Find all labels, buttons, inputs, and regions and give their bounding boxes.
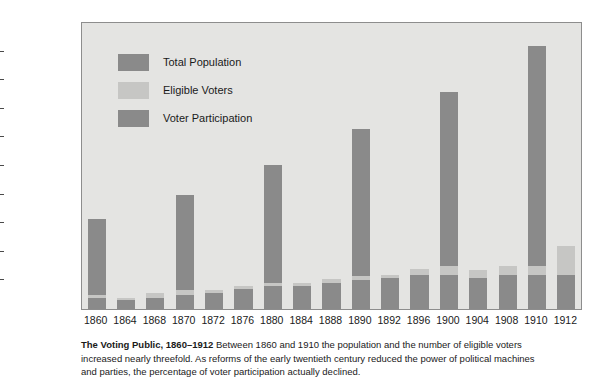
- x-axis-tick-label-1892: 1892: [375, 314, 404, 326]
- x-axis-tick-label-1890: 1890: [345, 314, 374, 326]
- x-axis-tick-label-1912: 1912: [551, 314, 580, 326]
- bar-segment-voter-participation-1890: [352, 280, 370, 309]
- bar-group-1904: [469, 270, 487, 309]
- y-axis-tick-mark-10: [0, 279, 4, 280]
- x-axis-tick-label-1904: 1904: [463, 314, 492, 326]
- bar-segment-voter-participation-1884: [293, 286, 311, 309]
- x-axis-tick-label-1864: 1864: [110, 314, 139, 326]
- legend-swatch-eligible-voters: [118, 82, 149, 99]
- bar-group-1888: [322, 279, 340, 309]
- bar-group-1880: [264, 165, 282, 309]
- x-axis-tick-label-1888: 1888: [316, 314, 345, 326]
- bar-group-1864: [117, 298, 135, 309]
- legend-label-eligible-voters: Eligible Voters: [163, 82, 233, 99]
- legend-swatch-total-population: [118, 54, 149, 71]
- y-axis-tick-mark-20: [0, 251, 4, 252]
- x-axis-tick-label-1876: 1876: [228, 314, 257, 326]
- bar-segment-voter-participation-1876: [234, 289, 252, 309]
- bar-group-1876: [234, 286, 252, 309]
- bar-group-1908: [499, 266, 517, 309]
- x-axis-tick-label-1868: 1868: [140, 314, 169, 326]
- y-axis-tick-mark-90: [0, 51, 4, 52]
- bar-group-1872: [205, 290, 223, 309]
- y-axis-tick-mark-30: [0, 222, 4, 223]
- bar-segment-voter-participation-1910: [528, 275, 546, 309]
- x-axis-tick-label-1908: 1908: [492, 314, 521, 326]
- legend-item-voter-participation: Voter Participation: [118, 108, 338, 132]
- bar-group-1870: [176, 195, 194, 309]
- bar-segment-eligible-voters-1912: [557, 246, 575, 275]
- bar-group-1900: [440, 92, 458, 309]
- bar-segment-voter-participation-1872: [205, 293, 223, 309]
- legend-label-total-population: Total Population: [163, 54, 241, 71]
- bar-segment-eligible-voters-1910: [528, 266, 546, 275]
- bar-segment-eligible-voters-1908: [499, 266, 517, 274]
- bar-group-1912: [557, 246, 575, 309]
- bar-group-1896: [410, 269, 428, 309]
- figure-caption: The Voting Public, 1860–1912 Between 186…: [81, 338, 551, 379]
- bar-segment-total-population-1870: [176, 195, 194, 290]
- legend-item-total-population: Total Population: [118, 52, 338, 76]
- x-axis-tick-label-1896: 1896: [404, 314, 433, 326]
- bar-segment-voter-participation-1864: [117, 300, 135, 309]
- bar-segment-eligible-voters-1904: [469, 270, 487, 277]
- bar-segment-total-population-1910: [528, 46, 546, 266]
- bar-segment-voter-participation-1870: [176, 295, 194, 309]
- bar-segment-voter-participation-1888: [322, 283, 340, 309]
- bar-segment-voter-participation-1908: [499, 275, 517, 309]
- bar-group-1868: [146, 293, 164, 309]
- bar-segment-voter-participation-1860: [88, 298, 106, 309]
- bar-segment-eligible-voters-1900: [440, 266, 458, 275]
- legend-label-voter-participation: Voter Participation: [163, 110, 252, 127]
- x-axis-tick-label-1870: 1870: [169, 314, 198, 326]
- bar-segment-voter-participation-1904: [469, 278, 487, 309]
- voting-public-chart-figure: Number of People (Millions) 010203040506…: [0, 0, 614, 382]
- y-axis-tick-mark-40: [0, 194, 4, 195]
- y-axis-tick-mark-70: [0, 108, 4, 109]
- x-axis: 1860186418681870187218761880188418881890…: [81, 312, 582, 330]
- bar-segment-total-population-1880: [264, 165, 282, 282]
- bar-segment-total-population-1860: [88, 219, 106, 295]
- bar-segment-voter-participation-1892: [381, 278, 399, 309]
- bar-group-1860: [88, 219, 106, 309]
- bar-segment-total-population-1890: [352, 129, 370, 276]
- x-axis-tick-label-1884: 1884: [286, 314, 315, 326]
- bar-segment-voter-participation-1900: [440, 275, 458, 309]
- y-axis-tick-mark-80: [0, 79, 4, 80]
- caption-title: The Voting Public, 1860–1912: [81, 339, 213, 350]
- bar-segment-total-population-1900: [440, 92, 458, 266]
- chart-legend: Total Population Eligible Voters Voter P…: [118, 52, 338, 136]
- bar-group-1892: [381, 275, 399, 309]
- x-axis-tick-label-1860: 1860: [81, 314, 110, 326]
- x-axis-tick-label-1872: 1872: [198, 314, 227, 326]
- x-axis-tick-label-1910: 1910: [521, 314, 550, 326]
- y-axis-tick-mark-50: [0, 165, 4, 166]
- bar-group-1890: [352, 129, 370, 309]
- legend-swatch-voter-participation: [118, 110, 149, 127]
- bar-group-1910: [528, 46, 546, 309]
- y-axis: Number of People (Millions) 010203040506…: [0, 0, 81, 334]
- bar-segment-voter-participation-1912: [557, 275, 575, 309]
- x-axis-tick-label-1900: 1900: [433, 314, 462, 326]
- bar-group-1884: [293, 283, 311, 309]
- x-axis-tick-label-1880: 1880: [257, 314, 286, 326]
- legend-item-eligible-voters: Eligible Voters: [118, 80, 338, 104]
- y-axis-tick-mark-60: [0, 136, 4, 137]
- bar-segment-voter-participation-1896: [410, 275, 428, 309]
- bar-segment-voter-participation-1880: [264, 286, 282, 309]
- bar-segment-voter-participation-1868: [146, 298, 164, 309]
